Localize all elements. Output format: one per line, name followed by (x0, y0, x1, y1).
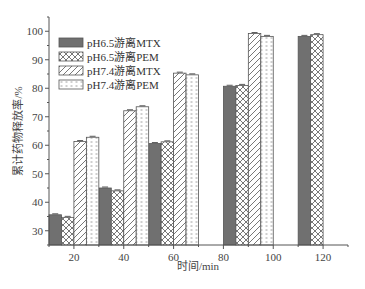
x-tick-label: 120 (315, 251, 332, 263)
y-tick-label: 50 (32, 168, 44, 180)
legend-swatch-crosshatch (59, 52, 83, 61)
x-tick-label: 40 (118, 251, 130, 263)
bar-diagonal (124, 111, 136, 245)
release-bar-chart: 30405060708090100 20406080100120 时间/min … (0, 0, 365, 289)
bar-dotted (186, 75, 198, 245)
y-tick-label: 100 (27, 25, 44, 37)
bar-solid-gray (298, 36, 310, 245)
bar-solid-gray (223, 86, 235, 245)
legend: pH6.5游离MTXpH6.5游离PEMpH7.4游离MTXpH7.4游离PEM (59, 36, 161, 91)
y-axis-title: 累计药物释放率/% (11, 86, 24, 175)
bar-diagonal (174, 73, 186, 245)
bar-solid-gray (99, 188, 111, 245)
bar-dotted (136, 107, 148, 245)
x-axis-title: 时间/min (177, 260, 220, 272)
y-tick-label: 60 (32, 139, 44, 151)
y-ticks: 30405060708090100 (27, 17, 50, 245)
bar-crosshatch (111, 191, 123, 245)
legend-label: pH7.4游离MTX (87, 64, 161, 77)
bar-solid-gray (149, 144, 161, 245)
bar-dotted (261, 36, 273, 245)
legend-swatch-dotted (59, 80, 83, 89)
bar-crosshatch (61, 217, 73, 245)
legend-swatch-solid-gray (59, 38, 83, 47)
bar-crosshatch (161, 142, 173, 245)
y-tick-label: 40 (32, 196, 44, 208)
bar-diagonal (74, 142, 86, 245)
legend-label: pH6.5游离MTX (87, 36, 161, 49)
y-tick-label: 30 (32, 225, 44, 237)
bar-diagonal (248, 34, 260, 245)
legend-label: pH7.4游离PEM (87, 78, 159, 91)
x-tick-label: 80 (218, 251, 230, 263)
y-tick-label: 70 (32, 111, 44, 123)
y-tick-label: 80 (32, 82, 44, 94)
bar-crosshatch (236, 85, 248, 245)
bar-dotted (86, 137, 98, 245)
bar-crosshatch (311, 35, 323, 245)
legend-swatch-diagonal (59, 66, 83, 75)
legend-label: pH6.5游离PEM (87, 50, 159, 63)
x-tick-label: 20 (68, 251, 80, 263)
bar-solid-gray (49, 215, 61, 245)
x-tick-label: 100 (265, 251, 282, 263)
y-tick-label: 90 (32, 54, 44, 66)
